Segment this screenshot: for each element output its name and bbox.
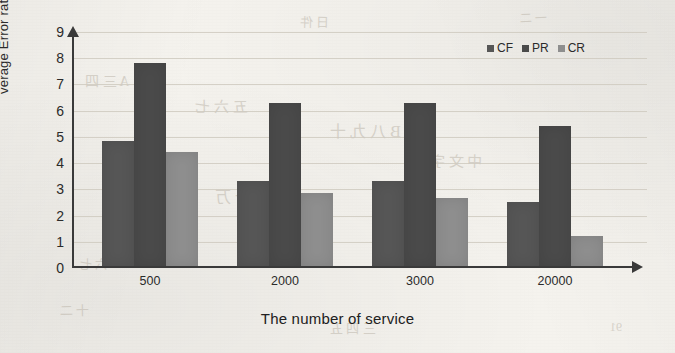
- legend-swatch-cr: [558, 45, 565, 52]
- ghost-mark: 日 件: [300, 12, 330, 32]
- bar-cf-500: [102, 141, 134, 266]
- bar-group: [507, 30, 603, 266]
- bar-pr-20000: [539, 126, 571, 266]
- bar-cr-20000: [571, 236, 603, 266]
- y-axis-title: verage Error rate(%): [0, 0, 11, 94]
- y-tick-label: 9: [44, 24, 64, 40]
- legend: CFPRCR: [487, 41, 585, 55]
- x-tick-label: 20000: [538, 274, 573, 288]
- scanned-page-background: 日 件一 二A 三 四五 六 七B 八 九 十DEF中 文 字百 千 万GHI …: [0, 0, 675, 353]
- bar-cf-2000: [237, 181, 269, 266]
- bar-pr-2000: [269, 103, 301, 266]
- bar-pr-3000: [404, 103, 436, 266]
- y-tick-label: 0: [44, 260, 64, 276]
- bar-cr-3000: [436, 198, 468, 266]
- y-tick-label: 5: [44, 129, 64, 145]
- x-axis-line: [72, 266, 641, 268]
- legend-label: CR: [568, 41, 585, 55]
- bar-cr-2000: [301, 193, 333, 266]
- y-tick-label: 2: [44, 208, 64, 224]
- legend-label: CF: [497, 41, 513, 55]
- bar-group: [237, 30, 333, 266]
- x-axis-title: The number of service: [0, 310, 675, 327]
- bar-cr-500: [166, 152, 198, 266]
- bar-cf-20000: [507, 202, 539, 266]
- x-tick-label: 2000: [271, 274, 299, 288]
- bar-pr-500: [134, 63, 166, 266]
- y-tick-label: 7: [44, 76, 64, 92]
- legend-item-cf: CF: [487, 41, 513, 55]
- bar-groups: [74, 30, 641, 266]
- ghost-mark: 一 二: [520, 8, 548, 27]
- legend-swatch-pr: [522, 45, 529, 52]
- y-tick-label: 4: [44, 155, 64, 171]
- x-tick-label: 3000: [406, 274, 434, 288]
- y-tick-label: 1: [44, 234, 64, 250]
- legend-label: PR: [532, 41, 549, 55]
- bar-cf-3000: [372, 181, 404, 266]
- bar-group: [372, 30, 468, 266]
- bar-group: [102, 30, 198, 266]
- legend-item-cr: CR: [558, 41, 585, 55]
- y-tick-label: 3: [44, 181, 64, 197]
- x-tick-label: 500: [140, 274, 161, 288]
- y-tick-label: 6: [44, 103, 64, 119]
- plot-area: 0123456789: [72, 30, 647, 268]
- legend-item-pr: PR: [522, 41, 549, 55]
- x-axis-tick-labels: 5002000300020000: [74, 274, 641, 294]
- legend-swatch-cf: [487, 45, 494, 52]
- y-tick-label: 8: [44, 50, 64, 66]
- y-axis-tick-labels: 0123456789: [44, 30, 66, 268]
